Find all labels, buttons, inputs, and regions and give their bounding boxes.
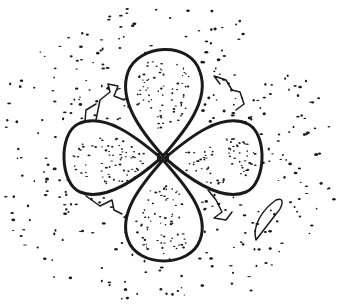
- cell-lobes: [64, 49, 262, 261]
- fragment: [255, 199, 282, 240]
- fragment: [96, 84, 124, 120]
- tetrad-illustration: [0, 0, 340, 305]
- fragment: [214, 76, 244, 110]
